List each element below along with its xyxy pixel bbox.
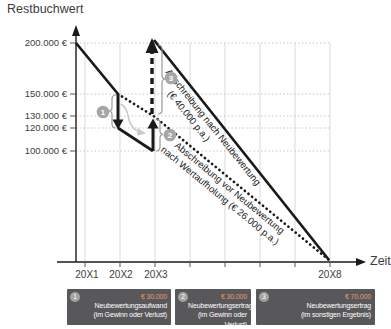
legend-badge-3: 3 — [259, 292, 269, 302]
solid-bookvalue-line — [76, 43, 159, 151]
brace-reversal — [156, 119, 164, 151]
legend-2-line1: Neubewertungsertrag — [188, 301, 247, 310]
legend-1-line2: (im Gewinn oder Verlust) — [80, 310, 167, 319]
ytick-130000: 130.000 € — [25, 110, 68, 121]
legend-3-amount: € 70.000 — [269, 292, 371, 301]
legend-1-line1: Neubewertungsaufwand — [80, 301, 167, 310]
legend-box-revaluation-income-pl: 2 € 30.000 Neubewertungsertrag (im Gewin… — [175, 289, 251, 325]
marker-2: 2 — [164, 129, 177, 142]
y-axis-ticks — [70, 43, 76, 151]
brace-revaluation-surplus — [158, 45, 166, 114]
ytick-150000: 150.000 € — [25, 88, 68, 99]
legend-box-revaluation-expense: 1 € 30.000 Neubewertungsaufwand (im Gewi… — [67, 289, 171, 325]
depreciation-chart: 200.000 € 150.000 € 130.000 € 120.000 € … — [0, 0, 389, 287]
marker-2-label: 2 — [168, 131, 173, 140]
marker-1-label: 1 — [101, 108, 106, 117]
legend-1-amount: € 30.000 — [80, 292, 167, 301]
legend-2-line2: (im Gewinn oder Verlust) — [188, 310, 247, 328]
xtick-20x1: 20X1 — [75, 269, 99, 280]
legend-3-line2: (im sonstigen Ergebnis) — [269, 310, 371, 319]
xtick-20x8: 20X8 — [318, 269, 342, 280]
label-before-revaluation-line2: nach Wertaufholung (€ 26.000 p.a.) — [159, 144, 281, 247]
legend-3-line1: Neubewertungsertrag — [269, 301, 371, 310]
marker-1: 1 — [97, 106, 110, 119]
dashed-revaluation-arrow — [146, 38, 159, 114]
legend-badge-1: 1 — [70, 292, 80, 302]
marker-3: 3 — [165, 72, 178, 85]
legend-2-amount: € 30.000 — [188, 292, 247, 301]
y-axis-arrowhead-icon — [72, 25, 80, 36]
legend-box-revaluation-income-oci: 3 € 70.000 Neubewertungsertrag (im sonst… — [256, 289, 375, 325]
curved-arrowhead-icon — [137, 128, 146, 136]
label-before-revaluation: Abschreibung vor Neubewertung nach Werta… — [159, 135, 289, 248]
ytick-200000: 200.000 € — [25, 37, 68, 48]
xtick-20x3: 20X3 — [144, 269, 168, 280]
x-axis-ticks — [85, 262, 330, 267]
xtick-20x2: 20X2 — [109, 269, 133, 280]
legend-badge-2: 2 — [178, 292, 188, 302]
x-axis-arrowhead-icon — [356, 258, 366, 266]
ytick-120000: 120.000 € — [25, 122, 68, 133]
dashed-arrowhead-icon — [146, 38, 159, 53]
marker-3-label: 3 — [169, 74, 174, 83]
ytick-100000: 100.000 € — [25, 145, 68, 156]
vertical-gridlines — [85, 43, 330, 261]
legend-row: 1 € 30.000 Neubewertungsaufwand (im Gewi… — [0, 289, 389, 325]
